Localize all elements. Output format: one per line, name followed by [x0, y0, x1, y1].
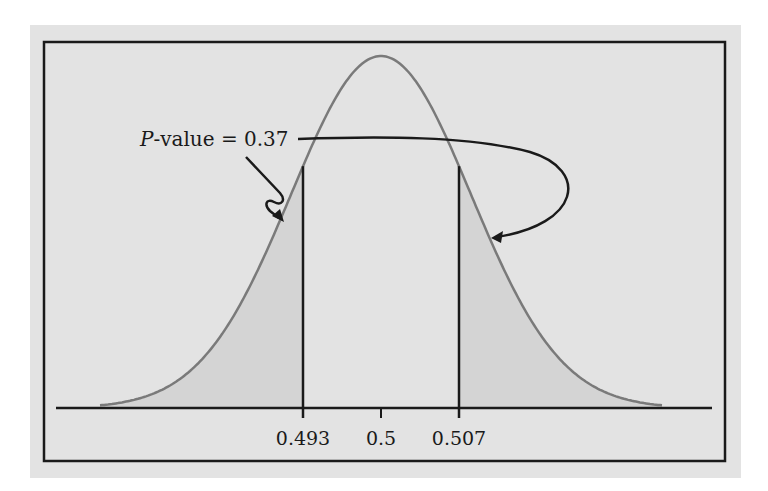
- tick-label-0.507: 0.507: [432, 427, 486, 449]
- p-value-text: -value = 0.37: [153, 127, 288, 151]
- p-value-annotation: P-value = 0.37: [139, 127, 289, 151]
- p-value-figure: 0.493 0.5 0.507 P-value = 0.37: [0, 0, 768, 491]
- normal-curve-chart: 0.493 0.5 0.507 P-value = 0.37: [0, 0, 768, 491]
- tick-label-0.5: 0.5: [366, 427, 396, 449]
- tick-label-0.493: 0.493: [276, 427, 330, 449]
- panel-background: [30, 25, 741, 478]
- p-symbol: P: [139, 127, 154, 151]
